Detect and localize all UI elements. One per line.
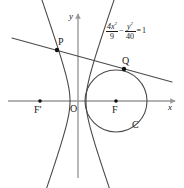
- point-label-f-prime: F′: [34, 105, 42, 115]
- hyperbola-equation: 4x2 9 − y2 40 = 1: [106, 22, 146, 41]
- circle-label-c: C: [132, 120, 139, 130]
- equation-term-2: y2 40: [125, 22, 136, 41]
- point-dot-Q: [122, 67, 126, 71]
- equation-right-hand-side: 1: [142, 27, 146, 35]
- equation-term-2-exponent: 2: [131, 21, 133, 26]
- point-label-p: P: [58, 37, 64, 47]
- equation-term-1: 4x2 9: [106, 22, 118, 41]
- x-axis-label: x: [168, 103, 172, 112]
- secant-line-pq: [12, 38, 172, 82]
- point-label-q: Q: [122, 56, 129, 66]
- equation-term-1-numerator: 4x2: [106, 22, 118, 31]
- hyperbola-left-branch: [40, 0, 70, 188]
- point-dot-F: [114, 99, 118, 103]
- point-label-f: F: [112, 105, 118, 115]
- y-axis-label: y: [69, 12, 73, 21]
- axes-group: [8, 14, 175, 178]
- equation-term-1-denominator: 9: [109, 32, 115, 41]
- point-dot-F-prime: [38, 99, 42, 103]
- geometry-figure: x y F′ O F P Q C 4x2 9 − y2 40 = 1: [0, 0, 184, 188]
- point-dot-P: [55, 48, 59, 52]
- equation-term-1-exponent: 2: [115, 21, 117, 26]
- point-label-origin: O: [70, 104, 77, 114]
- point-markers: [38, 48, 126, 103]
- equation-term-2-denominator: 40: [125, 32, 135, 41]
- equation-term-1-numerator-text: 4x: [107, 22, 115, 31]
- figure-canvas: [0, 0, 184, 188]
- equation-term-2-numerator: y2: [126, 22, 134, 31]
